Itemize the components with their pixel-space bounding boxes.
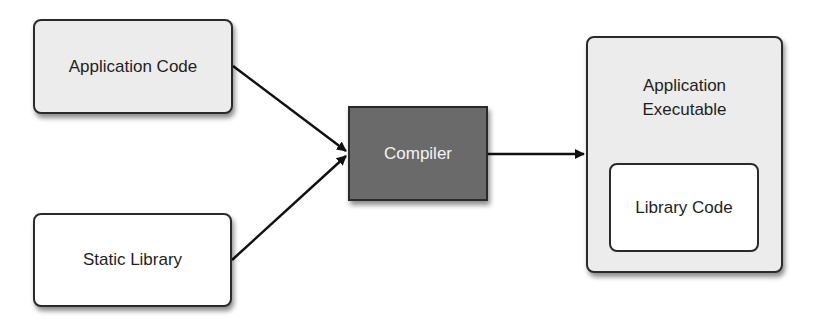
compiler-label: Compiler <box>384 144 452 164</box>
application-executable-label: Application Executable <box>588 74 781 122</box>
compiler-node: Compiler <box>348 106 488 201</box>
application-executable-node: Application Executable Library Code <box>586 36 783 273</box>
arrow-appcode-to-compiler <box>233 66 346 151</box>
application-code-label: Application Code <box>69 57 198 77</box>
static-library-label: Static Library <box>83 250 182 270</box>
library-code-label: Library Code <box>635 198 732 218</box>
arrow-staticlib-to-compiler <box>232 156 346 260</box>
application-code-node: Application Code <box>33 19 233 114</box>
library-code-node: Library Code <box>609 163 759 252</box>
static-library-node: Static Library <box>33 213 232 307</box>
